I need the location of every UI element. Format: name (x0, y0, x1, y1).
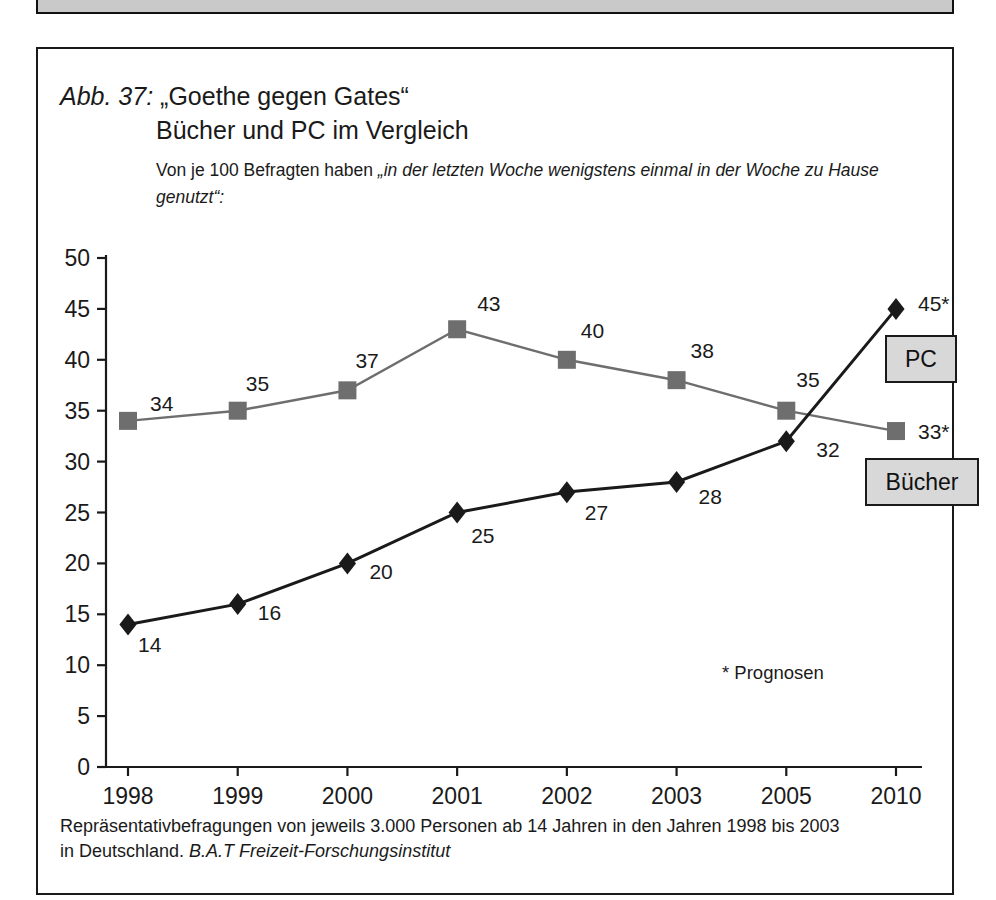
data-point-label: 34 (150, 392, 174, 415)
data-point-label: 33* (918, 420, 950, 443)
data-point-marker[interactable] (558, 351, 576, 369)
data-point-label: 28 (699, 485, 722, 508)
data-point-label: 32 (816, 438, 839, 461)
y-axis-tick-label: 15 (64, 601, 90, 627)
y-axis-tick-label: 50 (64, 245, 90, 271)
legend-label-pc: PC (905, 346, 937, 373)
data-point-marker[interactable] (668, 471, 685, 493)
data-point-label: 38 (691, 339, 714, 362)
x-axis-tick-label: 2005 (761, 783, 812, 809)
x-axis-tick-label: 2003 (651, 783, 702, 809)
y-axis-tick-label: 40 (64, 347, 90, 373)
data-point-label: 16 (258, 601, 281, 624)
data-point-label: 35 (246, 372, 269, 395)
forecast-footnote: * Prognosen (722, 662, 824, 684)
data-point-marker[interactable] (119, 613, 136, 635)
source-institute: B.A.T Freizeit-Forschungsinstitut (189, 841, 450, 861)
data-point-label: 43 (477, 292, 500, 315)
data-point-marker[interactable] (229, 593, 246, 615)
data-point-marker[interactable] (229, 402, 247, 420)
chart-plot-area: 0510152025303540455019981999200020012002… (38, 49, 956, 897)
y-axis-tick-label: 0 (77, 754, 90, 780)
figure-container: Abb. 37: „Goethe gegen Gates“ Bücher und… (36, 47, 954, 895)
data-point-marker[interactable] (558, 481, 575, 503)
data-point-label: 45* (918, 292, 950, 315)
y-axis-tick-label: 25 (64, 500, 90, 526)
y-axis-tick-label: 20 (64, 550, 90, 576)
data-point-label: 27 (585, 501, 608, 524)
data-point-marker[interactable] (119, 412, 137, 430)
data-point-marker[interactable] (339, 552, 356, 574)
y-axis-tick-label: 30 (64, 449, 90, 475)
data-point-label: 14 (138, 633, 162, 656)
x-axis-tick-label: 2010 (870, 783, 921, 809)
data-point-label: 35 (796, 368, 819, 391)
source-line-2-plain: in Deutschland. (60, 841, 189, 861)
data-point-marker[interactable] (887, 422, 905, 440)
page-header-bar (36, 0, 954, 14)
source-line-1: Repräsentativbefragungen von jeweils 3.0… (60, 816, 840, 836)
x-axis-tick-label: 2002 (541, 783, 592, 809)
y-axis-tick-label: 45 (64, 296, 90, 322)
x-axis-tick-label: 2000 (322, 783, 373, 809)
y-axis-tick-label: 10 (64, 652, 90, 678)
x-axis-tick-label: 2001 (432, 783, 483, 809)
source-note: Repräsentativbefragungen von jeweils 3.0… (60, 814, 940, 864)
data-point-label: 20 (369, 560, 392, 583)
y-axis-tick-label: 35 (64, 398, 90, 424)
data-point-label: 40 (581, 319, 604, 342)
x-axis-tick-label: 1999 (212, 783, 263, 809)
legend-label-buecher: Bücher (886, 469, 959, 496)
data-point-label: 25 (471, 524, 494, 547)
data-point-label: 37 (355, 349, 378, 372)
data-point-marker[interactable] (668, 371, 686, 389)
data-point-marker[interactable] (338, 381, 356, 399)
x-axis-tick-label: 1998 (102, 783, 153, 809)
legend-item-buecher[interactable]: Bücher (865, 458, 979, 506)
line-chart-svg: 0510152025303540455019981999200020012002… (38, 49, 956, 897)
series-line-bcher (128, 309, 896, 625)
legend-item-pc[interactable]: PC (885, 335, 957, 383)
y-axis-tick-label: 5 (77, 703, 90, 729)
data-point-marker[interactable] (449, 502, 466, 524)
data-point-marker[interactable] (777, 402, 795, 420)
data-point-marker[interactable] (448, 320, 466, 338)
